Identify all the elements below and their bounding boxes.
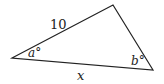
triangle-diagram: 10 x a° b° [0, 0, 164, 84]
side-label-x: x [77, 68, 85, 83]
angle-label-b: b° [131, 54, 145, 68]
angle-label-a: a° [28, 46, 41, 60]
side-label-10: 10 [50, 17, 67, 32]
